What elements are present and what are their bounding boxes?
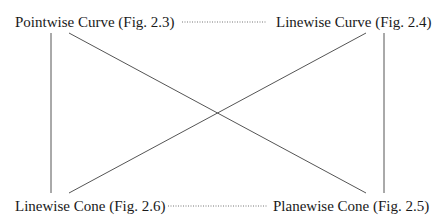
- node-linewise-curve: Linewise Curve (Fig. 2.4): [276, 13, 431, 31]
- node-linewise-cone: Linewise Cone (Fig. 2.6): [15, 197, 165, 215]
- node-planewise-cone: Planewise Cone (Fig. 2.5): [273, 197, 429, 215]
- diagram-edges: [0, 0, 445, 223]
- node-pointwise-curve: Pointwise Curve (Fig. 2.3): [15, 13, 175, 31]
